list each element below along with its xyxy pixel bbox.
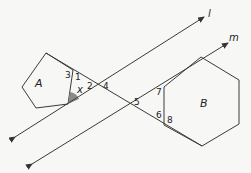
angle-label-8: 8 — [167, 116, 173, 125]
angle-label-2: 2 — [87, 82, 93, 91]
shape-label-b: B — [200, 98, 208, 109]
shape-label-a: A — [35, 78, 43, 89]
angle-label-6: 6 — [156, 111, 162, 120]
angle-label-7: 7 — [156, 88, 162, 97]
angle-label-3: 3 — [65, 71, 71, 80]
line-m — [32, 43, 228, 164]
line-label-m: m — [229, 33, 239, 43]
angle-label-5: 5 — [134, 98, 140, 107]
angle-label-1: 1 — [75, 73, 81, 82]
pentagon-a — [22, 53, 73, 108]
angle-label-4: 4 — [103, 82, 109, 91]
line-label-l: l — [208, 9, 211, 19]
angle-label-x: x — [77, 85, 83, 95]
